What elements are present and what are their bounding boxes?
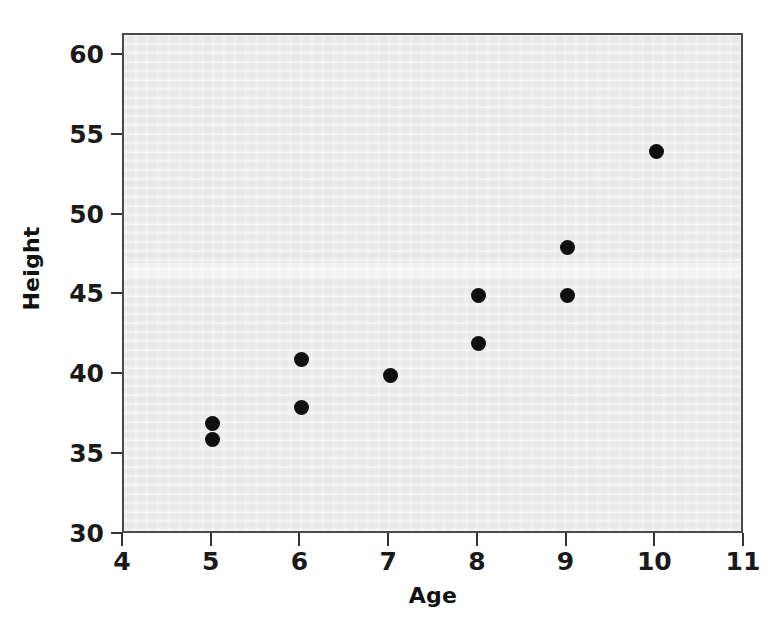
x-axis-tick (387, 533, 389, 546)
y-axis-tick (111, 213, 122, 215)
x-axis-tick (210, 533, 212, 546)
x-axis-tick (121, 533, 123, 546)
scatter-plot-figure: 30354045505560 4567891011 Age Height (0, 0, 778, 638)
x-axis-tick (742, 533, 744, 546)
x-axis-title: Age (363, 583, 503, 608)
y-axis-tick (111, 452, 122, 454)
x-axis-tick-label: 7 (353, 549, 423, 574)
x-axis-tick-label: 6 (264, 549, 334, 574)
data-point (294, 400, 309, 415)
data-point (560, 288, 575, 303)
plot-panel (122, 33, 743, 533)
y-axis-tick-label: 35 (44, 441, 104, 466)
x-axis-tick-label: 10 (619, 549, 689, 574)
data-point (383, 368, 398, 383)
x-axis-tick-label: 11 (708, 549, 778, 574)
y-axis-tick-label: 50 (44, 201, 104, 226)
x-axis-tick (565, 533, 567, 546)
x-axis-tick (653, 533, 655, 546)
data-point (205, 416, 220, 431)
data-point (205, 432, 220, 447)
y-axis-title: Height (19, 199, 44, 339)
x-axis-tick (476, 533, 478, 546)
data-point (560, 240, 575, 255)
data-point (471, 336, 486, 351)
data-point (471, 288, 486, 303)
x-axis-tick-label: 5 (176, 549, 246, 574)
y-axis-tick (111, 53, 122, 55)
y-axis-tick (111, 372, 122, 374)
data-point (294, 352, 309, 367)
y-axis-tick (111, 133, 122, 135)
y-axis-tick-label: 30 (44, 521, 104, 546)
x-axis-tick-label: 4 (87, 549, 157, 574)
y-axis-tick-label: 45 (44, 281, 104, 306)
data-point (649, 144, 664, 159)
y-axis-tick-label: 55 (44, 121, 104, 146)
y-axis-tick (111, 292, 122, 294)
x-axis-tick (298, 533, 300, 546)
x-axis-tick-label: 9 (531, 549, 601, 574)
y-axis-tick-label: 40 (44, 361, 104, 386)
x-axis-tick-label: 8 (442, 549, 512, 574)
y-axis-tick-label: 60 (44, 41, 104, 66)
